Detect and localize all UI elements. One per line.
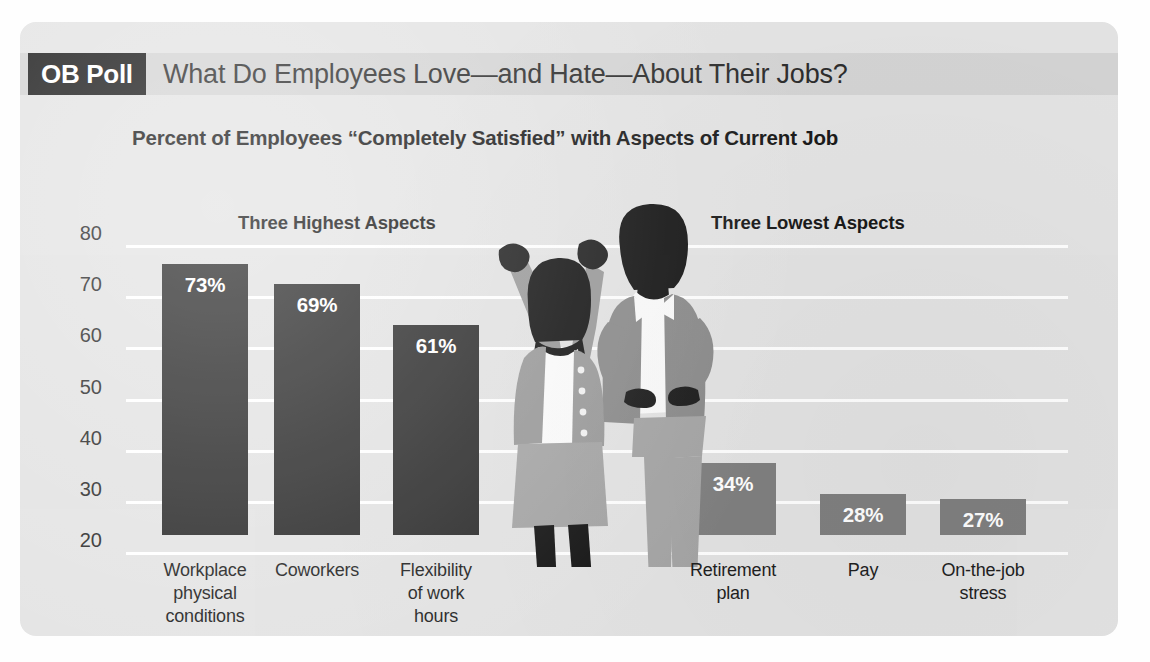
bar-high: 69% bbox=[274, 284, 360, 535]
poll-card: OB Poll What Do Employees Love—and Hate—… bbox=[20, 22, 1118, 636]
y-axis-tick-label: 60 bbox=[62, 324, 102, 347]
x-axis-label: Flexibilityof workhours bbox=[366, 559, 506, 628]
chart-subtitle: Percent of Employees “Completely Satisfi… bbox=[132, 126, 838, 150]
y-axis-tick-label: 80 bbox=[62, 222, 102, 245]
y-axis-tick-label: 50 bbox=[62, 375, 102, 398]
y-axis-tick-label: 40 bbox=[62, 426, 102, 449]
page-title: What Do Employees Love—and Hate—About Th… bbox=[163, 53, 848, 95]
illustration-two-employees bbox=[450, 192, 750, 567]
x-axis-label-line: hours bbox=[366, 605, 506, 628]
bar-low: 28% bbox=[820, 494, 906, 535]
hands-on-hips-figure bbox=[597, 204, 713, 567]
x-axis-label: On-the-jobstress bbox=[913, 559, 1053, 605]
x-axis-label-line: of work bbox=[366, 582, 506, 605]
bar-value-label: 28% bbox=[820, 503, 906, 527]
bar-value-label: 73% bbox=[162, 273, 248, 297]
ob-poll-badge: OB Poll bbox=[28, 53, 146, 95]
x-axis-label-line: Retirement bbox=[663, 559, 803, 582]
celebrating-woman-figure bbox=[499, 239, 608, 567]
screenshot-root: OB Poll What Do Employees Love—and Hate—… bbox=[0, 0, 1150, 662]
x-axis-label-line: Pay bbox=[793, 559, 933, 582]
x-axis-label-line: conditions bbox=[135, 605, 275, 628]
y-axis-tick-label: 70 bbox=[62, 273, 102, 296]
y-axis-tick-label: 30 bbox=[62, 477, 102, 500]
x-axis-label: Pay bbox=[793, 559, 933, 582]
x-axis-label-line: Flexibility bbox=[366, 559, 506, 582]
bar-high: 73% bbox=[162, 264, 248, 535]
bar-low: 27% bbox=[940, 499, 1026, 535]
x-axis-label-line: On-the-job bbox=[913, 559, 1053, 582]
x-axis-label-line: stress bbox=[913, 582, 1053, 605]
x-axis-label-line: plan bbox=[663, 582, 803, 605]
x-axis-label-line: physical bbox=[135, 582, 275, 605]
x-axis-label: Retirementplan bbox=[663, 559, 803, 605]
y-axis-tick-label: 20 bbox=[62, 529, 102, 552]
section-label-highest: Three Highest Aspects bbox=[238, 212, 436, 234]
bar-value-label: 69% bbox=[274, 293, 360, 317]
bar-value-label: 27% bbox=[940, 508, 1026, 532]
